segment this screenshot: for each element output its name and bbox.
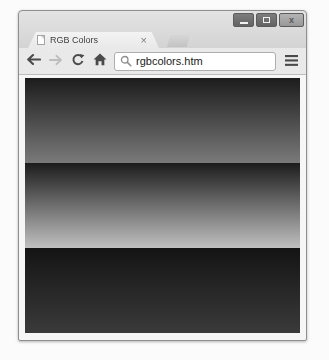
browser-window: x RGB Colors × (18, 10, 307, 341)
window-controls: x (233, 13, 304, 27)
url-input[interactable] (136, 55, 270, 67)
gradient-canvas (25, 78, 300, 333)
back-arrow-icon (26, 53, 41, 69)
menu-button[interactable] (281, 51, 302, 72)
page-content (19, 75, 306, 340)
gradient-band-3 (25, 248, 300, 333)
reload-button[interactable] (67, 51, 88, 72)
minimize-icon (240, 22, 248, 24)
figure-background: x RGB Colors × (0, 0, 329, 360)
forward-button[interactable] (45, 51, 66, 72)
page-favicon-icon (37, 35, 45, 45)
tab-strip: RGB Colors × (19, 31, 306, 48)
navigation-toolbar (19, 48, 306, 75)
home-icon (93, 53, 107, 69)
minimize-button[interactable] (233, 13, 254, 27)
search-icon (120, 55, 132, 67)
gradient-band-1 (25, 78, 300, 163)
hamburger-menu-icon (285, 54, 298, 69)
gradient-band-2 (25, 163, 300, 248)
close-icon: x (289, 16, 294, 25)
forward-arrow-icon (49, 54, 63, 69)
tab-title: RGB Colors (50, 35, 141, 45)
reload-icon (71, 53, 85, 70)
new-tab-button[interactable] (167, 35, 190, 47)
close-button[interactable]: x (279, 13, 304, 27)
tab-close-icon[interactable]: × (141, 35, 147, 46)
tab-rgb-colors[interactable]: RGB Colors × (28, 32, 159, 48)
address-bar[interactable] (114, 52, 276, 71)
maximize-button[interactable] (256, 13, 277, 27)
home-button[interactable] (89, 51, 110, 72)
window-titlebar[interactable]: x (19, 11, 306, 31)
maximize-icon (263, 17, 270, 23)
back-button[interactable] (23, 51, 44, 72)
